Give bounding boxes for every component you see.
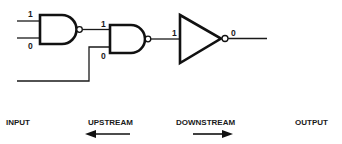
output-label: OUTPUT bbox=[295, 118, 328, 127]
nand-gate-2 bbox=[110, 25, 145, 53]
logic-circuit-diagram: 1 0 1 0 1 0 INPUT UPSTREAM DOWNSTREAM OU… bbox=[0, 0, 342, 144]
nand-gate-1 bbox=[40, 15, 77, 44]
inverter-bubble bbox=[222, 36, 228, 42]
input-label: INPUT bbox=[6, 118, 30, 127]
inverter-input-label: 1 bbox=[172, 28, 177, 38]
inverter-gate bbox=[180, 15, 221, 63]
downstream-label: DOWNSTREAM bbox=[176, 118, 235, 127]
g2-input-wire-bottom bbox=[17, 47, 110, 81]
downstream-arrow-icon bbox=[193, 130, 233, 138]
g1-input-bottom-label: 0 bbox=[28, 41, 33, 51]
upstream-label: UPSTREAM bbox=[88, 118, 133, 127]
inverter-output-label: 0 bbox=[231, 28, 236, 38]
nand-gate-1-bubble bbox=[77, 27, 83, 33]
g1-input-top-label: 1 bbox=[28, 9, 33, 19]
g2-input-bottom-label: 0 bbox=[101, 51, 106, 61]
upstream-arrow-icon bbox=[85, 130, 130, 138]
nand-gate-2-bubble bbox=[145, 36, 151, 42]
g2-input-top-label: 1 bbox=[101, 19, 106, 29]
